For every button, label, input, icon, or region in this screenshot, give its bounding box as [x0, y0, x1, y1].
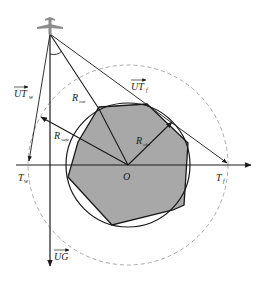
angle-arc: [50, 51, 62, 55]
label-ut-f: UT f: [131, 80, 149, 93]
svg-text:f: f: [146, 87, 149, 93]
svg-text:w: w: [29, 94, 33, 100]
svg-text:O: O: [123, 171, 130, 182]
svg-text:safe: safe: [61, 137, 70, 142]
svg-text:UT: UT: [131, 81, 145, 92]
svg-text:R: R: [53, 130, 60, 141]
svg-text:out: out: [79, 99, 86, 104]
svg-text:f: f: [223, 178, 226, 184]
label-ug: UG: [54, 250, 69, 262]
svg-text:obs: obs: [143, 142, 150, 147]
label-ut-w: UT w: [14, 87, 33, 100]
aircraft-icon: [37, 17, 63, 35]
svg-text:R: R: [71, 92, 78, 103]
label-r-out: R out: [71, 92, 86, 104]
svg-text:UG: UG: [54, 251, 68, 262]
label-t-f: T f: [216, 172, 226, 184]
svg-text:R: R: [135, 135, 142, 146]
svg-text:w: w: [24, 178, 28, 184]
diagram-canvas: UT w UT f R out R safe R obs O T w T f U…: [0, 0, 265, 282]
label-origin: O: [123, 171, 130, 182]
label-t-w: T w: [18, 172, 28, 184]
svg-text:T: T: [216, 172, 223, 183]
svg-text:UT: UT: [14, 88, 28, 99]
